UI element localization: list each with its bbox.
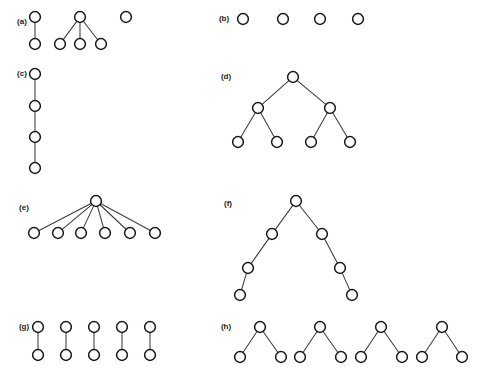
figure-container: (a)(b)(c)(d)(e)(f)(g)(h) (0, 0, 477, 379)
graph-node (121, 12, 132, 23)
graph-node (335, 263, 346, 274)
panel-label-d: (d) (221, 72, 232, 81)
graph-node (75, 39, 86, 50)
graph-node (89, 350, 100, 361)
graph-node (353, 14, 364, 25)
graph-node (437, 322, 448, 333)
panel-label-b: (b) (219, 14, 230, 23)
graph-node (76, 228, 87, 239)
graph-node (91, 196, 102, 207)
graph-node (253, 103, 264, 114)
panel-label-c: (c) (17, 69, 27, 78)
graph-node (345, 137, 356, 148)
graph-node (267, 229, 278, 240)
graph-node (295, 352, 306, 363)
graph-node (315, 14, 326, 25)
graph-node (397, 352, 408, 363)
graph-node (33, 322, 44, 333)
graph-node (336, 352, 347, 363)
graph-node (30, 12, 41, 23)
graph-node (53, 228, 64, 239)
graph-node (55, 39, 66, 50)
graph-node (233, 137, 244, 148)
graph-node (125, 228, 136, 239)
graph-node (30, 39, 41, 50)
graph-node (33, 350, 44, 361)
graph-node (306, 137, 317, 148)
graph-node (30, 69, 41, 80)
graph-panels-figure: (a)(b)(c)(d)(e)(f)(g)(h) (0, 0, 477, 379)
graph-node (75, 12, 86, 23)
graph-node (145, 350, 156, 361)
graph-node (100, 228, 111, 239)
graph-node (272, 137, 283, 148)
graph-node (255, 322, 266, 333)
graph-node (317, 229, 328, 240)
graph-node (243, 263, 254, 274)
graph-node (291, 196, 302, 207)
graph-node (288, 72, 299, 83)
panel-label-h: (h) (221, 322, 232, 331)
graph-node (117, 322, 128, 333)
graph-node (117, 350, 128, 361)
graph-node (238, 14, 249, 25)
graph-node (325, 103, 336, 114)
graph-node (150, 228, 161, 239)
graph-node (29, 228, 40, 239)
graph-node (96, 39, 107, 50)
graph-node (457, 352, 468, 363)
graph-node (376, 322, 387, 333)
panel-label-f: (f) (224, 199, 232, 208)
graph-node (61, 322, 72, 333)
graph-node (30, 163, 41, 174)
graph-node (145, 322, 156, 333)
panel-label-g: (g) (19, 322, 30, 331)
graph-node (315, 322, 326, 333)
graph-node (235, 352, 246, 363)
graph-node (278, 14, 289, 25)
panel-label-e: (e) (19, 203, 29, 212)
graph-node (30, 101, 41, 112)
graph-node (356, 352, 367, 363)
graph-node (61, 350, 72, 361)
graph-node (417, 352, 428, 363)
graph-node (235, 290, 246, 301)
graph-node (89, 322, 100, 333)
figure-background (0, 0, 477, 379)
graph-node (30, 132, 41, 143)
graph-node (347, 290, 358, 301)
panel-label-a: (a) (17, 17, 27, 26)
graph-node (276, 352, 287, 363)
